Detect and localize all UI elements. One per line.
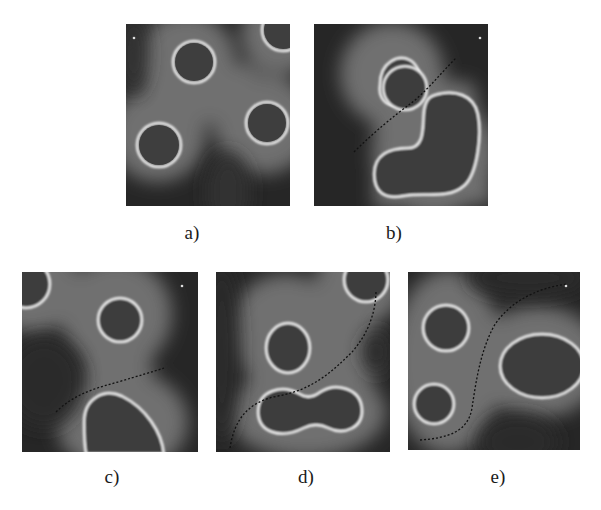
- panel-a-label: a): [172, 222, 212, 244]
- panel-e: [408, 272, 580, 450]
- panel-d-label: d): [286, 466, 326, 488]
- panel-a-image: [126, 24, 290, 206]
- panel-e-image: [408, 272, 580, 450]
- panel-e-label: e): [478, 466, 518, 488]
- panel-d-image: [216, 272, 390, 452]
- panel-b: [314, 24, 488, 206]
- panel-c-image: [22, 272, 198, 452]
- panel-a: [126, 24, 290, 206]
- panel-c: [22, 272, 198, 452]
- panel-d: [216, 272, 390, 452]
- panel-c-label: c): [92, 466, 132, 488]
- panel-b-label: b): [374, 222, 414, 244]
- panel-b-image: [314, 24, 488, 206]
